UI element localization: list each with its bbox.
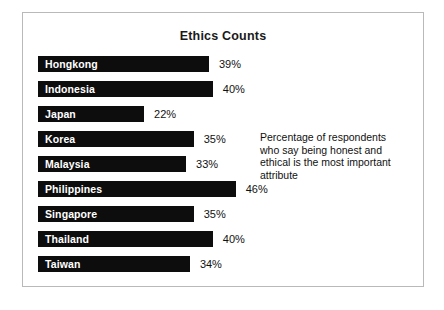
bar-category-label: Thailand xyxy=(45,231,89,247)
annotation-line: who say being honest and xyxy=(260,144,420,157)
bar: Japan xyxy=(38,106,144,122)
bar-row: Hongkong39% xyxy=(38,56,378,72)
bar: Taiwan xyxy=(38,256,190,272)
annotation-line: ethical is the most important xyxy=(260,156,420,169)
bar-value-label: 39% xyxy=(219,56,241,72)
bar-row: Philippines46% xyxy=(38,181,378,197)
bar-category-label: Korea xyxy=(45,131,75,147)
bar-row: Thailand40% xyxy=(38,231,378,247)
bar-category-label: Japan xyxy=(45,106,76,122)
bar: Thailand xyxy=(38,231,213,247)
bar-value-label: 40% xyxy=(223,231,245,247)
bar-category-label: Indonesia xyxy=(45,81,95,97)
bar: Philippines xyxy=(38,181,236,197)
bar-value-label: 22% xyxy=(154,106,176,122)
bar-row: Indonesia40% xyxy=(38,81,378,97)
bar-value-label: 40% xyxy=(223,81,245,97)
chart-annotation: Percentage of respondentswho say being h… xyxy=(260,131,420,181)
bar: Hongkong xyxy=(38,56,209,72)
annotation-line: attribute xyxy=(260,169,420,182)
bar: Korea xyxy=(38,131,194,147)
bar-value-label: 46% xyxy=(246,181,268,197)
bar-row: Japan22% xyxy=(38,106,378,122)
annotation-line: Percentage of respondents xyxy=(260,131,420,144)
bar-value-label: 35% xyxy=(204,206,226,222)
bar-row: Singapore35% xyxy=(38,206,378,222)
bar: Indonesia xyxy=(38,81,213,97)
bar-value-label: 33% xyxy=(196,156,218,172)
bar-category-label: Singapore xyxy=(45,206,97,222)
bar-value-label: 35% xyxy=(204,131,226,147)
bar: Malaysia xyxy=(38,156,186,172)
chart-title: Ethics Counts xyxy=(23,29,423,43)
bar-category-label: Malaysia xyxy=(45,156,90,172)
bar-category-label: Taiwan xyxy=(45,256,80,272)
bar: Singapore xyxy=(38,206,194,222)
bar-category-label: Philippines xyxy=(45,181,102,197)
bar-category-label: Hongkong xyxy=(45,56,98,72)
chart-frame: Ethics Counts Hongkong39%Indonesia40%Jap… xyxy=(22,12,424,287)
bar-row: Taiwan34% xyxy=(38,256,378,272)
bar-value-label: 34% xyxy=(200,256,222,272)
